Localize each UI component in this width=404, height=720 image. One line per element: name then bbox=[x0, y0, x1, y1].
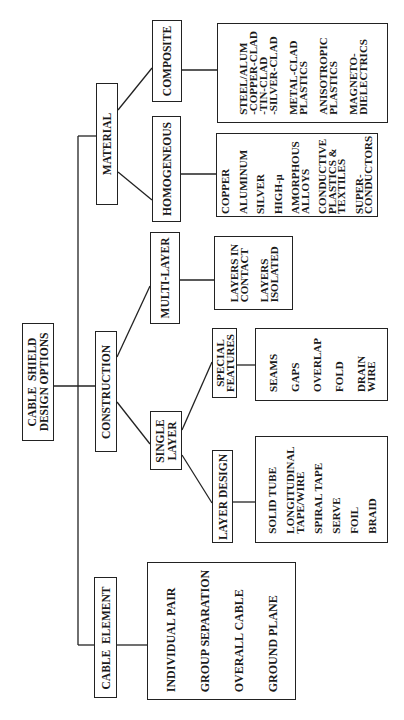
node-homogeneous: HOMOGENEOUS bbox=[152, 116, 181, 222]
node-composite: COMPOSITE bbox=[152, 20, 182, 102]
special-features-list: SEAMS GAPS OVERLAP FOLD DRAIN WIRE bbox=[255, 328, 388, 401]
list-item: SERVE bbox=[331, 446, 341, 533]
list-item: LONGITUDINAL TAPE/WIRE bbox=[285, 446, 305, 533]
list-item: SUPER- CONDUCTORS bbox=[354, 136, 373, 214]
list-item: AMORPHOUS ALLOYS bbox=[291, 136, 310, 214]
node-special-features: SPECIAL FEATURES bbox=[212, 328, 237, 398]
node-homogeneous-label: HOMOGENEOUS bbox=[161, 122, 173, 216]
list-item: CONDUCTIVE PLASTICS & TEXTILES bbox=[318, 136, 347, 214]
node-single-layer: SINGLE LAYER bbox=[150, 411, 182, 470]
node-cable-element: CABLE ELEMENT bbox=[94, 577, 117, 698]
node-multi-layer: MULTI-LAYER bbox=[150, 232, 180, 324]
node-cable-element-label: CABLE ELEMENT bbox=[100, 586, 112, 689]
list-item: SILVER bbox=[256, 136, 266, 214]
multi-layer-options-list: LAYERS IN CONTACT LAYERS ISOLATED bbox=[214, 236, 293, 310]
list-item: GROUND PLANE bbox=[267, 570, 279, 693]
list-item: FOLD bbox=[334, 338, 344, 392]
list-item: MAGNETO- DIELECTRICS bbox=[348, 31, 368, 115]
list-item: LAYERS ISOLATED bbox=[259, 244, 279, 303]
list-item: SPIRAL TAPE bbox=[313, 446, 323, 533]
node-material: MATERIAL bbox=[96, 83, 118, 205]
root-node-cable-shield-design-options: CABLE SHIELD DESIGN OPTIONS bbox=[22, 323, 54, 441]
list-item: ALUMINUM bbox=[238, 136, 248, 214]
list-item: FOIL bbox=[349, 446, 359, 533]
cable-element-options-list: INDIVIDUAL PAIR GROUP SEPARATION OVERALL… bbox=[147, 562, 296, 700]
list-item: OVERALL CABLE bbox=[233, 570, 245, 693]
root-node-label: CABLE SHIELD DESIGN OPTIONS bbox=[26, 333, 50, 432]
layer-design-list: SOLID TUBE LONGITUDINAL TAPE/WIRE SPIRAL… bbox=[255, 436, 388, 543]
node-construction-label: CONSTRUCTION bbox=[100, 345, 112, 439]
list-item: COPPER bbox=[221, 136, 231, 214]
list-item: INDIVIDUAL PAIR bbox=[165, 570, 177, 693]
list-item: OVERLAP bbox=[312, 338, 322, 392]
list-item: LAYERS IN CONTACT bbox=[229, 244, 249, 303]
homogeneous-materials-list: COPPER ALUMINUM SILVER HIGH-μ AMORPHOUS … bbox=[216, 133, 378, 217]
list-item: HIGH-μ bbox=[273, 136, 283, 214]
node-composite-label: COMPOSITE bbox=[161, 26, 173, 96]
node-multi-layer-label: MULTI-LAYER bbox=[159, 238, 171, 319]
list-item: SOLID TUBE bbox=[267, 446, 277, 533]
list-item: GAPS bbox=[290, 338, 300, 392]
composite-materials-list: STEEL/ALUM -COPPER-CLAD -TIN-CLAD -SILVE… bbox=[217, 23, 388, 123]
node-material-label: MATERIAL bbox=[101, 113, 113, 175]
list-item: GROUP SEPARATION bbox=[199, 570, 211, 693]
list-item: DRAIN WIRE bbox=[356, 338, 376, 392]
node-single-layer-label: SINGLE LAYER bbox=[154, 419, 178, 462]
node-layer-design: LAYER DESIGN bbox=[212, 450, 233, 543]
list-item: SEAMS bbox=[268, 338, 278, 392]
node-construction: CONSTRUCTION bbox=[95, 331, 117, 452]
list-item: STEEL/ALUM -COPPER-CLAD -TIN-CLAD -SILVE… bbox=[238, 31, 278, 115]
list-item: ANISOTROPIC PLASTICS bbox=[318, 31, 338, 115]
node-layer-design-label: LAYER DESIGN bbox=[217, 453, 229, 539]
list-item: BRAID bbox=[367, 446, 377, 533]
node-special-features-label: SPECIAL FEATURES bbox=[215, 334, 235, 392]
list-item: METAL-CLAD PLASTICS bbox=[288, 31, 308, 115]
